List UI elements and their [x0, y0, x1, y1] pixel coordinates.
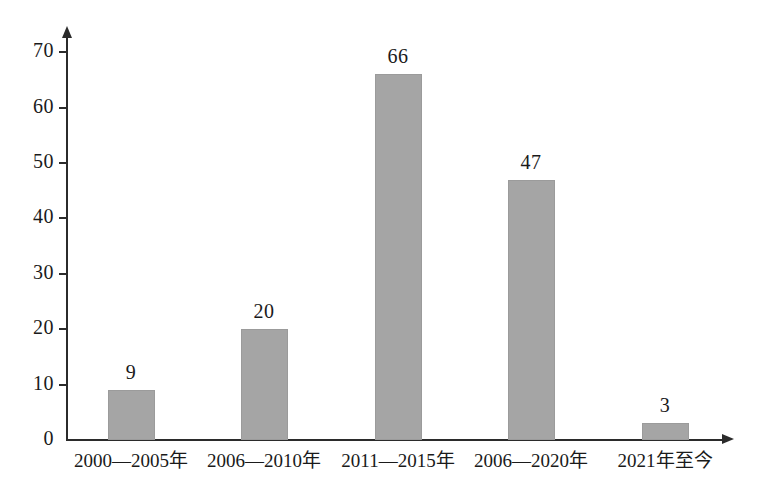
- y-axis-tick-30: 30: [0, 273, 68, 275]
- y-axis-tick-label: 70: [10, 40, 54, 60]
- bar-chart: 706050403020100 92066473 2000—2005年2006—…: [0, 0, 762, 492]
- y-axis-tick-label: 0: [10, 428, 54, 448]
- y-axis-tick-50: 50: [0, 162, 68, 164]
- y-axis-tick-label: 30: [10, 262, 54, 282]
- bar: [375, 74, 422, 440]
- bar-value-label: 66: [358, 46, 438, 66]
- x-axis-category-label: 2006—2010年: [194, 450, 334, 472]
- y-axis-line: [66, 36, 68, 441]
- x-axis-category-label: 2021年至今: [595, 450, 735, 472]
- x-axis-category-label: 2011—2015年: [328, 450, 468, 472]
- y-axis-tick-label: 60: [10, 96, 54, 116]
- y-axis-tick-mark: [59, 217, 68, 219]
- y-axis-tick-label: 10: [10, 373, 54, 393]
- bar-value-label: 20: [224, 301, 304, 321]
- y-axis-arrow-icon: [62, 26, 72, 38]
- bar: [108, 390, 155, 440]
- x-axis-category-label: 2000—2005年: [61, 450, 201, 472]
- y-axis-tick-label: 20: [10, 317, 54, 337]
- bar-value-label: 9: [91, 362, 171, 382]
- bar-value-label: 47: [491, 152, 571, 172]
- y-axis-tick-20: 20: [0, 328, 68, 330]
- x-axis-category-label: 2006—2020年: [461, 450, 601, 472]
- y-axis-tick-10: 10: [0, 384, 68, 386]
- x-axis-arrow-icon: [722, 434, 734, 444]
- y-axis-tick-40: 40: [0, 217, 68, 219]
- bar: [241, 329, 288, 440]
- y-axis-tick-label: 50: [10, 151, 54, 171]
- y-axis-tick-mark: [59, 273, 68, 275]
- bar: [508, 180, 555, 440]
- y-axis-tick-label: 40: [10, 206, 54, 226]
- y-axis-tick-60: 60: [0, 107, 68, 109]
- y-axis-tick-mark: [59, 384, 68, 386]
- y-axis-tick-mark: [59, 51, 68, 53]
- y-axis-tick-0: 0: [0, 439, 68, 441]
- y-axis-tick-mark: [59, 107, 68, 109]
- y-axis-tick-70: 70: [0, 51, 68, 53]
- bar: [642, 423, 689, 440]
- y-axis-tick-mark: [59, 328, 68, 330]
- bar-value-label: 3: [625, 395, 705, 415]
- y-axis-tick-mark: [59, 162, 68, 164]
